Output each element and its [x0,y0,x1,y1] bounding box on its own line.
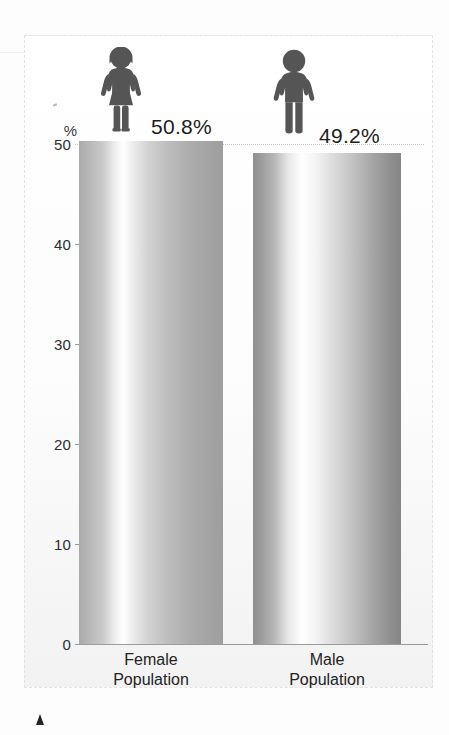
y-tick-label-40: 40 [25,236,71,253]
male-figure-icon [263,49,325,134]
scan-speck [53,103,57,106]
chart-frame: % 50 40 30 20 10 0 [24,35,433,688]
page-corner-triangle-mark [36,714,44,725]
female-figure-icon [89,47,153,132]
value-label-female: 50.8% [151,115,212,139]
bar-female-population[interactable] [79,141,223,644]
plot-area: % 50 40 30 20 10 0 [25,36,432,687]
category-label-male-line1: Male [247,650,407,670]
y-tick-label-30: 30 [25,336,71,353]
value-label-male: 49.2% [319,124,380,148]
x-axis-line [75,644,428,646]
bar-male-population[interactable] [253,153,401,644]
category-label-female-line2: Population [71,670,231,690]
y-tick-label-10: 10 [25,536,71,553]
category-label-female-line1: Female [71,650,231,670]
y-tick-label-0: 0 [25,636,71,653]
scanned-page: % 50 40 30 20 10 0 [0,0,449,735]
y-tick-label-20: 20 [25,436,71,453]
category-label-male-line2: Population [247,670,407,690]
y-tick-label-50: 50 [25,136,71,153]
category-label-female: Female Population [71,650,231,690]
category-label-male: Male Population [247,650,407,690]
